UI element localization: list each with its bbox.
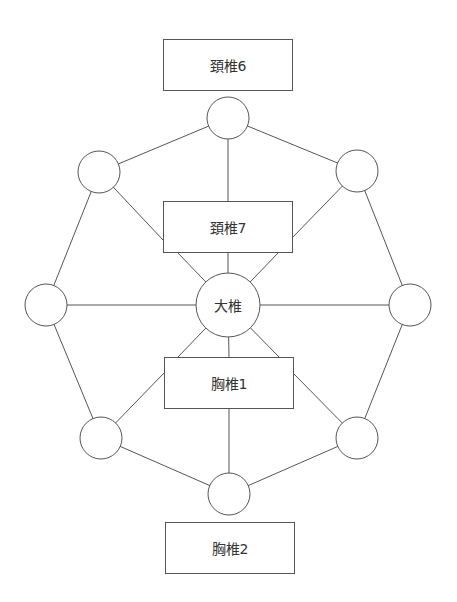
- box-t2: [166, 523, 295, 574]
- node-center: [196, 273, 260, 337]
- node-top: [207, 97, 249, 139]
- node-right: [389, 284, 431, 326]
- acupoint-diagram: [0, 0, 457, 602]
- node-bottom: [208, 473, 250, 515]
- node-upper-left: [78, 151, 120, 193]
- box-c6: [164, 40, 293, 91]
- node-lower-right: [336, 417, 378, 459]
- box-c7: [164, 202, 293, 253]
- node-upper-right: [336, 150, 378, 192]
- node-lower-left: [80, 417, 122, 459]
- node-left: [25, 284, 67, 326]
- box-t1: [165, 358, 294, 409]
